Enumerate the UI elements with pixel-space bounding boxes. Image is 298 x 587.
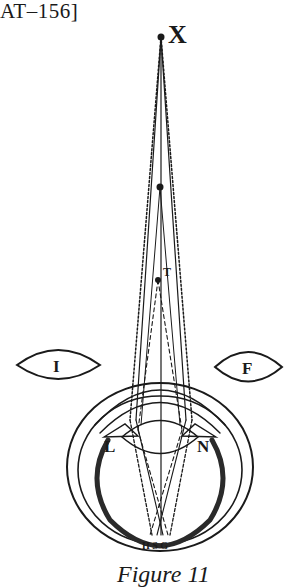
label-l: L [104, 437, 115, 456]
iris-right [182, 424, 216, 437]
point-t [155, 277, 161, 283]
point-middle [157, 184, 164, 191]
label-n: N [197, 437, 210, 456]
label-t: T [163, 265, 171, 279]
label-hsg: H S G [142, 540, 168, 551]
eye-outer-shell [67, 383, 253, 551]
figure-caption: Figure 11 [117, 562, 210, 586]
point-x [158, 34, 165, 41]
label-f: F [242, 359, 252, 378]
label-x: X [168, 20, 187, 49]
label-i: I [53, 357, 60, 376]
